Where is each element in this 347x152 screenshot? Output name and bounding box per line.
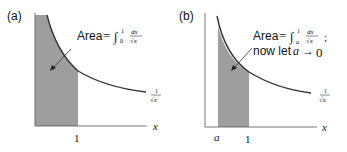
panel-a-label: (a) <box>7 9 22 23</box>
annotation-eq-b: = <box>279 28 286 43</box>
curve-label-den-a: √x <box>150 96 158 104</box>
integrand-num-b: dx <box>307 28 315 36</box>
panel-a: (a) Area = ∫ 1 0 dx √x 1 √x x 1 <box>7 9 161 144</box>
annotation-area-label-a: Area <box>77 29 103 43</box>
figure: (a) Area = ∫ 1 0 dx √x 1 √x x 1 (b) <box>0 0 347 152</box>
tick-1-a: 1 <box>74 132 80 144</box>
integral-sign-a: ∫ <box>113 29 119 45</box>
annotation-area-label-b: Area <box>253 29 279 43</box>
integrand-num-a: dx <box>131 28 139 36</box>
panel-b-label: (b) <box>179 9 194 23</box>
annotation-semicolon-b: ; <box>324 31 327 43</box>
panel-b: (b) Area = ∫ 1 a dx √x ; now let a → 0 1… <box>179 9 330 145</box>
curve-label-num-b: 1 <box>324 88 327 94</box>
x-axis-label-a: x <box>152 120 158 132</box>
tick-1-b: 1 <box>245 133 251 145</box>
annotation-line2-var-b: a <box>293 44 299 58</box>
shaded-area-b <box>218 26 249 127</box>
curve-label-num-a: 1 <box>155 88 158 94</box>
integrand-den-a: √x <box>130 37 138 45</box>
tick-a-b: a <box>214 131 220 143</box>
x-axis-label-b: x <box>321 121 327 133</box>
integral-lower-a: 0 <box>120 38 123 44</box>
annotation-eq-a: = <box>103 28 110 43</box>
integral-upper-a: 1 <box>121 28 124 34</box>
annotation-line2-text-b: now let <box>253 44 292 58</box>
annotation-line2-val-b: 0 <box>316 45 323 60</box>
shaded-area-a <box>35 15 78 126</box>
integral-sign-b: ∫ <box>289 29 295 45</box>
annotation-line2-arrow-b: → <box>302 44 314 58</box>
pointer-arrow-b <box>234 48 252 68</box>
integral-upper-b: 1 <box>297 28 300 34</box>
curve-label-den-b: √x <box>319 96 327 104</box>
